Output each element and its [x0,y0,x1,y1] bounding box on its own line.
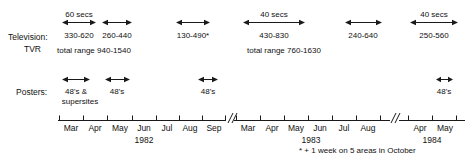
poster-burst-arrow-1 [62,76,90,83]
year-label-1984: 1984 [423,135,442,145]
tv-range-6: 250-560 [419,31,448,40]
year-label-1983: 1983 [302,135,321,145]
month-label-1982-apr: Apr [88,123,101,133]
tv-burst-arrow-4 [243,19,305,26]
year-label-1982: 1982 [135,135,154,145]
poster-burst-arrow-3 [198,76,218,83]
tv-burst-arrow-2 [102,19,132,26]
poster-label-4: 48's [437,87,451,96]
axis-break-icon-1 [228,113,237,123]
month-label-1983-aug: Aug [360,123,375,133]
month-label-1983-jul: Jul [339,123,350,133]
poster-label-2: 48's [110,87,124,96]
timeline-figure: Television: TVR 60 secs 40 secs 40 secs [0,0,465,159]
month-label-1983-jun: Jun [313,123,327,133]
month-label-1984-apr: Apr [413,123,426,133]
row-label-television: Television: [8,32,48,42]
month-label-1983-may: May [288,123,304,133]
tv-range-1: 330-620 [64,31,93,40]
tv-duration-1: 60 secs [65,10,93,19]
month-label-1982-jun: Jun [137,123,151,133]
footnote: * + 1 week on 5 areas in October [299,146,416,155]
tv-total-range-2: total range 760-1630 [247,46,321,55]
tv-burst-arrow-5 [345,19,382,26]
tv-duration-4: 40 secs [260,10,288,19]
month-label-1984-may: May [437,123,453,133]
poster-label-1a: 48's & [65,87,87,96]
poster-label-3: 48's [201,87,215,96]
tv-range-4: 430-830 [259,31,288,40]
month-label-1982-jul: Jul [162,123,173,133]
axis-break-icon-2 [391,113,400,123]
month-label-1982-sep: Sep [206,123,221,133]
axis-ticks [60,116,457,121]
tv-range-3: 130-490* [177,31,209,40]
month-label-1982-aug: Aug [182,123,197,133]
month-label-1982-may: May [112,123,128,133]
row-label-posters: Posters: [16,87,47,97]
tv-duration-6: 40 secs [420,10,448,19]
month-label-1983-apr: Apr [265,123,278,133]
tv-burst-arrow-6 [410,19,458,26]
tv-burst-arrow-3 [176,19,210,26]
month-label-1982-mar: Mar [64,123,79,133]
tv-total-range-1: total range 940-1540 [57,46,131,55]
tv-burst-arrow-1 [62,19,96,26]
row-label-tvr: TVR [24,44,41,54]
month-label-1983-mar: Mar [241,123,256,133]
tv-range-2: 260-440 [102,31,131,40]
poster-burst-arrow-2 [105,76,130,83]
poster-label-1b: supersites [62,97,98,106]
poster-burst-arrow-4 [436,76,453,83]
tv-range-5: 240-640 [348,31,377,40]
